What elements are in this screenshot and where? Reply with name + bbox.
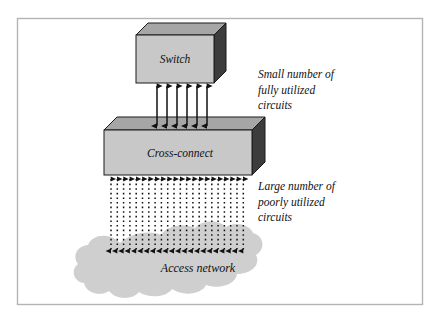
figure-root: Access network [0,0,440,320]
annotation-lower-line-2: poorly utilized [257,196,325,209]
annotation-lower-line-3: circuits [258,211,293,223]
node-cross-connect: Cross-connect [104,117,265,175]
cross-connect-label: Cross-connect [147,147,214,159]
cross-connect-top-face [104,117,265,130]
annotation-upper-line-3: circuits [258,99,293,111]
annotation-upper-line-1: Small number of [258,68,336,81]
node-switch: Switch [136,23,226,83]
annotation-lower-line-1: Large number of [257,180,337,193]
cloud-label: Access network [160,261,236,275]
network-diagram-canvas: Access network [0,0,440,320]
annotation-upper-line-2: fully utilized [258,84,315,97]
switch-label: Switch [160,53,191,65]
switch-top-face [136,23,226,35]
